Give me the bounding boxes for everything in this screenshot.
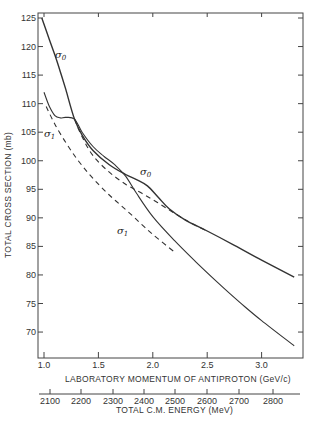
- x-tick-label: 3.0: [255, 360, 268, 370]
- plot-frame: [38, 13, 303, 358]
- x-tick-label: 2.0: [147, 360, 160, 370]
- series-solid-2: [44, 92, 294, 346]
- y-axis-ticks: 125120115110105100959085807570: [21, 13, 43, 337]
- y-tick-label: 125: [21, 13, 36, 23]
- y-tick-label: 100: [21, 156, 36, 166]
- x-axis-top-ticks: [44, 13, 262, 17]
- sigma-1-label-mid: σ1: [117, 225, 128, 238]
- x-tick-label: 1.5: [92, 360, 105, 370]
- y-tick-label: 75: [26, 299, 36, 309]
- y-tick-label: 70: [26, 327, 36, 337]
- x-tick-label: 2.5: [201, 360, 214, 370]
- x-tick-label: 1.0: [38, 360, 51, 370]
- series-solid-0: [42, 18, 294, 277]
- y-tick-label: 85: [26, 241, 36, 251]
- y-tick-label: 95: [26, 184, 36, 194]
- y-tick-label: 110: [22, 99, 36, 109]
- secondary-x-axis-ticks: 21002200230024002500260027002800: [40, 389, 283, 406]
- y-tick-label: 120: [21, 42, 36, 52]
- x2-tick-label: 2100: [40, 396, 60, 406]
- x-axis-ticks: 1.01.52.02.53.0: [38, 352, 268, 370]
- data-series: [42, 18, 294, 346]
- y-tick-label: 115: [22, 70, 36, 80]
- secondary-x-axis-title: TOTAL C.M. ENERGY (MeV): [116, 405, 233, 415]
- sigma-1-label-left: σ1: [44, 128, 55, 141]
- x-axis-title: LABORATORY MOMENTUM OF ANTIPROTON (GeV/c…: [65, 374, 291, 384]
- y-tick-label: 90: [26, 213, 36, 223]
- y-axis-title: TOTAL CROSS SECTION (mb): [3, 132, 13, 258]
- sigma-0-label-mid: σ0: [140, 166, 152, 179]
- x2-tick-label: 2200: [71, 396, 91, 406]
- series-dashed-3: [46, 107, 174, 253]
- x2-tick-label: 2800: [263, 396, 283, 406]
- y-tick-label: 80: [26, 270, 36, 280]
- y-axis-right-ticks: [298, 18, 303, 332]
- y-tick-label: 105: [21, 127, 36, 137]
- cross-section-chart: 125120115110105100959085807570 1.01.52.0…: [0, 0, 313, 425]
